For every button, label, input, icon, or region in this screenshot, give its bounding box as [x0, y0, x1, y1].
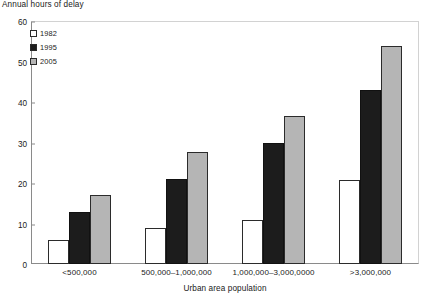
legend-label-1995: 1995	[40, 43, 57, 52]
bar-1995-2	[166, 179, 187, 264]
bar-series-layer	[31, 21, 419, 264]
bar-2005-4	[381, 46, 402, 264]
legend-item-1982: 1982	[30, 28, 57, 39]
x-axis-tick-label: 1,000,000–3,000,0000	[232, 268, 314, 277]
x-axis-ticks: <500,000500,000–1,000,0001,000,000–3,000…	[31, 268, 419, 280]
bar-1995-1	[69, 212, 90, 264]
x-axis-tick-label: <500,000	[62, 268, 96, 277]
legend-swatch-1982	[30, 30, 37, 37]
y-axis-tick-label: 20	[18, 180, 32, 189]
bar-2005-1	[90, 195, 111, 264]
legend-item-1995: 1995	[30, 42, 57, 53]
legend-swatch-2005	[30, 58, 37, 65]
x-axis-tick-label: 500,000–1,000,000	[141, 268, 212, 277]
legend-swatch-1995	[30, 44, 37, 51]
legend-label-2005: 2005	[40, 57, 57, 66]
legend-item-2005: 2005	[30, 56, 57, 67]
y-axis-tick-label: 10	[18, 220, 32, 229]
bar-1995-3	[263, 143, 284, 264]
x-axis-title: Urban area population	[31, 284, 419, 293]
bar-1982-2	[145, 228, 166, 264]
y-axis-tick-label: 40	[18, 99, 32, 108]
bar-group	[242, 21, 305, 264]
bar-group	[145, 21, 208, 264]
bar-1995-4	[360, 90, 381, 264]
chart-legend: 1982 1995 2005	[30, 28, 57, 70]
bar-group	[48, 21, 111, 264]
bar-group	[339, 21, 402, 264]
bar-chart: Annual hours of delay 0102030405060 1982…	[0, 0, 430, 297]
bar-1982-4	[339, 180, 360, 264]
x-axis-tick-label: >3,000,000	[350, 268, 391, 277]
bar-2005-2	[187, 152, 208, 264]
bar-2005-3	[284, 116, 305, 264]
y-axis-title: Annual hours of delay	[2, 0, 84, 9]
bar-1982-1	[48, 240, 69, 264]
bar-1982-3	[242, 220, 263, 264]
y-axis-tick-label: 60	[18, 18, 32, 27]
y-axis-tick-label: 30	[18, 139, 32, 148]
legend-label-1982: 1982	[40, 29, 57, 38]
